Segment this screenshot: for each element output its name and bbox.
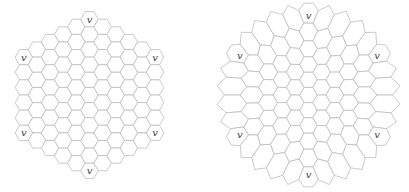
circular-hex-board-panel: vvvvvv [204,0,409,192]
hex-cell [370,77,400,95]
corner-label-v: v [87,14,93,25]
hex-cell [370,95,400,113]
hex-cell [146,65,164,80]
corner-label-v: v [87,165,93,176]
circular-warped-hex-board: vvvvvv [204,0,409,192]
regular-hex-board-panel: vvvvvv [0,0,205,192]
corner-label-v: v [306,10,312,21]
corner-label-v: v [374,129,380,140]
corner-label-v: v [152,127,158,138]
hex-cell [146,80,164,95]
corner-label-v: v [374,50,380,61]
corner-label-v: v [237,129,243,140]
hex-cell [146,110,164,125]
corner-label-v: v [306,169,312,180]
regular-hex-board: vvvvvv [0,0,205,192]
corner-label-v: v [237,50,243,61]
corner-label-v: v [152,52,158,63]
corner-label-v: v [21,127,27,138]
corner-label-v: v [21,52,27,63]
hex-cell [146,95,164,110]
